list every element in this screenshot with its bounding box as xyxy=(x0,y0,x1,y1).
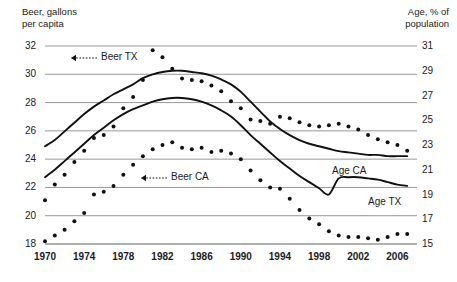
y-tick-left: 24 xyxy=(14,153,36,164)
y-tick-right: 31 xyxy=(422,40,446,51)
x-tick: 1974 xyxy=(64,251,104,262)
y-tick-left: 22 xyxy=(14,181,36,192)
chart-figure: Beer, gallons per capita Age, % of popul… xyxy=(0,0,457,282)
y-tick-left: 18 xyxy=(14,238,36,249)
series-dots-beer-tx xyxy=(43,48,409,202)
x-tick: 2002 xyxy=(338,251,378,262)
x-tick: 1994 xyxy=(260,251,300,262)
y-tick-left: 32 xyxy=(14,40,36,51)
annotation-beer-ca: Beer CA xyxy=(171,171,209,182)
arrow-beer-ca xyxy=(141,175,167,181)
y-tick-right: 15 xyxy=(422,238,446,249)
x-tick: 1978 xyxy=(103,251,143,262)
y-tick-left: 30 xyxy=(14,68,36,79)
annotation-age-ca: Age CA xyxy=(332,165,366,176)
annotation-age-tx: Age TX xyxy=(368,196,401,207)
y-tick-right: 27 xyxy=(422,90,446,101)
annotation-beer-tx: Beer TX xyxy=(101,51,138,62)
x-tick: 1998 xyxy=(299,251,339,262)
y-tick-left: 20 xyxy=(14,210,36,221)
x-tick: 1982 xyxy=(142,251,182,262)
y-tick-right: 21 xyxy=(422,164,446,175)
y-tick-right: 25 xyxy=(422,114,446,125)
chart-plot-area xyxy=(0,0,457,282)
series-line-age-tx xyxy=(45,98,407,195)
y-tick-right: 19 xyxy=(422,189,446,200)
arrow-beer-tx xyxy=(71,55,97,61)
y-tick-right: 23 xyxy=(422,139,446,150)
x-tick: 1990 xyxy=(221,251,261,262)
x-tick: 1986 xyxy=(182,251,222,262)
x-tick: 2006 xyxy=(377,251,417,262)
y-tick-left: 26 xyxy=(14,125,36,136)
series-dots-beer-ca xyxy=(43,140,409,243)
y-tick-left: 28 xyxy=(14,97,36,108)
x-tick: 1970 xyxy=(25,251,65,262)
y-tick-right: 29 xyxy=(422,65,446,76)
y-tick-right: 17 xyxy=(422,213,446,224)
